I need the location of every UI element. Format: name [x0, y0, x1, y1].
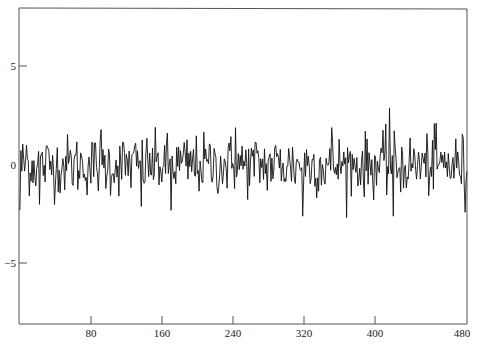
- plot-area: [20, 108, 467, 218]
- y-tick-label-neg5: −5: [4, 257, 16, 269]
- x-tick-label-160: 160: [154, 327, 171, 339]
- x-axis: 80 160 240 320 400 480: [86, 316, 471, 339]
- top-border: [19, 8, 467, 9]
- x-tick-label-80: 80: [86, 327, 98, 339]
- x-tick-label-320: 320: [296, 327, 313, 339]
- x-tick-label-400: 400: [367, 327, 384, 339]
- x-tick-label-240: 240: [225, 327, 242, 339]
- noise-series-line: [20, 108, 467, 218]
- line-chart: 5 0 −5 80 160 240 320 400 480: [0, 0, 477, 348]
- x-tick-label-480: 480: [454, 327, 471, 339]
- y-tick-label-5: 5: [11, 60, 17, 72]
- y-tick-label-0: 0: [11, 159, 17, 171]
- y-axis: 5 0 −5: [4, 60, 27, 269]
